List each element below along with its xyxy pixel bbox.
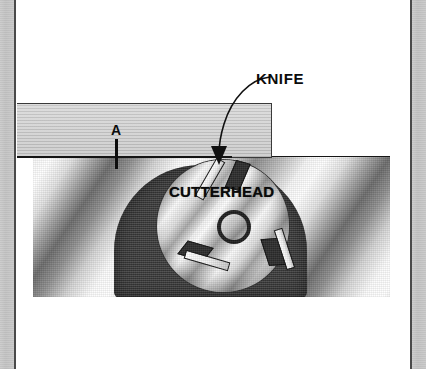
knife-label: KNIFE: [256, 70, 304, 87]
page-edge-rule-right: [410, 0, 412, 369]
arbor-hub-hole: [217, 210, 251, 244]
page-edge-rule-left: [14, 0, 16, 369]
point-a-label: A: [111, 122, 121, 138]
page-edge-band-left: [0, 0, 14, 369]
page-edge-band-right: [412, 0, 426, 369]
point-a-tick: [115, 139, 118, 169]
table-surface-line: [17, 156, 232, 158]
machine-photo-panel: [33, 157, 390, 297]
illustration-stage: A KNIFE CUTTERHEAD: [17, 0, 409, 369]
figure-page: A KNIFE CUTTERHEAD: [0, 0, 426, 369]
cutterhead-label: CUTTERHEAD: [169, 183, 274, 200]
